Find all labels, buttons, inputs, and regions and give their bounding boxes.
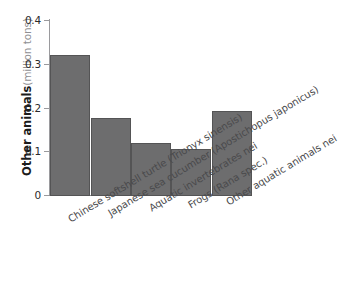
y-tick-label: 0.1: [0, 146, 41, 156]
y-tick-mark: [44, 20, 49, 21]
y-tick-label: 0.3: [0, 59, 41, 69]
y-axis-title-unit: (million tons): [21, 18, 33, 86]
bar-chart-figure: Other animals(million tons) 0.40.30.20.1…: [0, 0, 350, 301]
y-tick-mark: [44, 108, 49, 109]
y-tick-mark: [44, 195, 49, 196]
y-axis-title: Other animals(million tons): [17, 7, 35, 187]
bar: [50, 55, 90, 196]
y-tick-label: 0: [0, 190, 41, 200]
y-tick-mark: [44, 64, 49, 65]
y-tick-label: 0.2: [0, 103, 41, 113]
y-tick-label: 0.4: [0, 15, 41, 25]
y-axis-title-main: Other animals: [20, 86, 34, 176]
y-tick-mark: [44, 151, 49, 152]
